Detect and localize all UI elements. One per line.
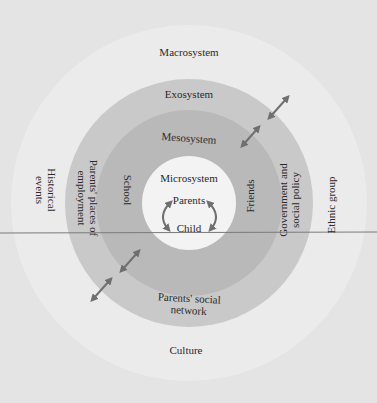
parents-employment-label: Parents' places of employment <box>76 160 100 237</box>
microsystem-label: Microsystem <box>160 172 217 184</box>
culture-label: Culture <box>170 344 203 356</box>
parents-label: Parents <box>173 194 205 206</box>
friends-label: Friends <box>244 180 256 213</box>
school-label: School <box>122 175 134 206</box>
historical-events-label: Historical events <box>34 168 58 211</box>
ethnic-group-label: Ethnic group <box>325 176 337 233</box>
government-policy-label: Government and social policy <box>277 163 301 237</box>
child-label: Child <box>177 222 201 234</box>
macrosystem-label: Macrosystem <box>159 46 218 58</box>
ecological-systems-diagram: Macrosystem Exosystem Mesosystem Microsy… <box>0 0 377 403</box>
exosystem-label: Exosystem <box>165 88 213 100</box>
parents-social-network-label: Parents' social network <box>157 290 221 317</box>
